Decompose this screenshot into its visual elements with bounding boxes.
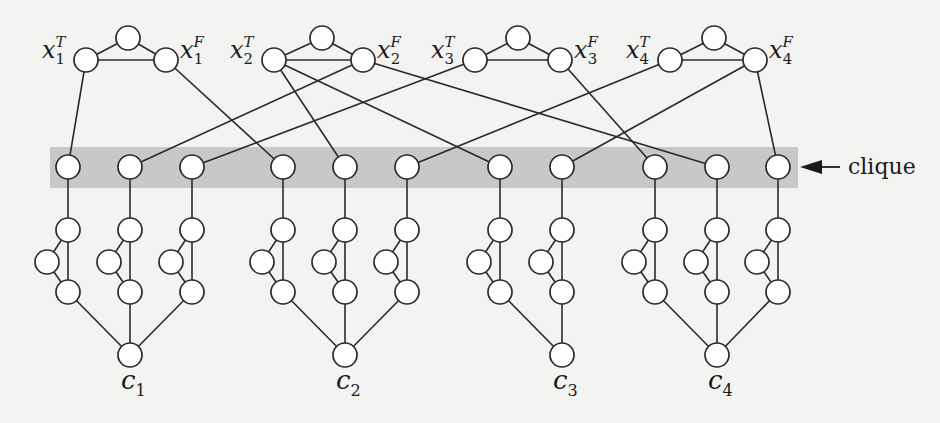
clique-node [488,155,512,179]
clique-label: clique [848,154,916,179]
variable-false-label: xF4 [769,33,794,68]
clique-node [56,155,80,179]
variable-false-node [154,48,178,72]
variable-apex-node [506,26,530,50]
gadget-bottom-node [118,280,142,304]
gadget-side-node [745,250,769,274]
clause-label: c2 [336,365,361,400]
gadget-side-node [35,250,59,274]
sat-to-clique-reduction-diagram: xT1xF1xT2xF2xT3xF3xT4xF4c1c2c3c4 clique [0,0,940,423]
gadget-top-node [550,218,574,242]
clique-node [180,155,204,179]
variable-true-node [658,48,682,72]
clique-callout: clique [800,154,916,179]
edges-layer [47,38,778,355]
gadget-bottom-node [705,280,729,304]
gadget-side-node [250,250,274,274]
gadget-top-node [705,218,729,242]
gadget-to-clause-edge [345,292,407,355]
variable-apex-node [702,26,726,50]
gadget-top-node [395,218,419,242]
gadget-top-node [271,218,295,242]
gadget-side-node [374,250,398,274]
clause-node [118,343,142,367]
gadget-top-node [333,218,357,242]
clique-node [271,155,295,179]
gadget-bottom-node [180,280,204,304]
clause-label: c1 [121,365,146,400]
clique-node [118,155,142,179]
clique-node [333,155,357,179]
variable-true-label: xT3 [431,33,456,68]
gadget-bottom-node [271,280,295,304]
variable-false-label: xF1 [180,33,205,68]
gadget-to-clause-edge [130,292,192,355]
gadget-bottom-node [643,280,667,304]
variable-false-label: xF3 [574,33,599,68]
clique-node [550,155,574,179]
gadget-side-node [97,250,121,274]
variable-apex-node [310,26,334,50]
clique-node [705,155,729,179]
variable-false-node [743,48,767,72]
gadget-bottom-node [395,280,419,304]
gadget-to-clause-edge [717,292,778,355]
gadget-side-node [529,250,553,274]
gadget-top-node [766,218,790,242]
gadget-side-node [467,250,491,274]
clause-label: c3 [553,365,578,400]
gadget-top-node [180,218,204,242]
gadget-to-clause-edge [283,292,345,355]
gadget-top-node [643,218,667,242]
variable-false-node [548,48,572,72]
clause-node [550,343,574,367]
gadget-bottom-node [56,280,80,304]
clause-label: c4 [708,365,733,400]
gadget-side-node [622,250,646,274]
variable-true-node [74,48,98,72]
gadget-side-node [312,250,336,274]
left-arrow-icon [800,160,822,174]
gadget-bottom-node [488,280,512,304]
nodes-layer [35,26,790,367]
gadget-to-clause-edge [68,292,130,355]
clique-node [766,155,790,179]
gadget-top-node [488,218,512,242]
gadget-to-clause-edge [500,292,562,355]
variable-false-node [351,48,375,72]
clique-band [50,147,798,188]
gadget-side-node [684,250,708,274]
gadget-top-node [56,218,80,242]
gadget-bottom-node [333,280,357,304]
variable-true-label: xT4 [626,33,651,68]
variable-true-node [262,48,286,72]
gadget-top-node [118,218,142,242]
variable-true-node [463,48,487,72]
variable-true-label: xT1 [42,33,67,68]
gadget-bottom-node [766,280,790,304]
gadget-side-node [159,250,183,274]
clique-node [395,155,419,179]
labels-layer: xT1xF1xT2xF2xT3xF3xT4xF4c1c2c3c4 [42,33,794,399]
clause-node [705,343,729,367]
gadget-bottom-node [550,280,574,304]
clique-node [643,155,667,179]
variable-apex-node [116,26,140,50]
variable-true-label: xT2 [230,33,255,68]
gadget-to-clause-edge [655,292,717,355]
variable-false-label: xF2 [377,33,402,68]
clause-node [333,343,357,367]
